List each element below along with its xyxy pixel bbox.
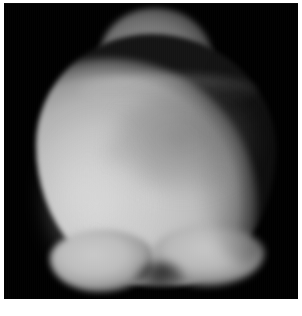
page-root — [0, 0, 302, 316]
image-plate-container — [0, 0, 302, 301]
lower-notch-shadow — [136, 262, 184, 296]
image-plate — [4, 3, 298, 299]
caption-band — [0, 301, 302, 316]
